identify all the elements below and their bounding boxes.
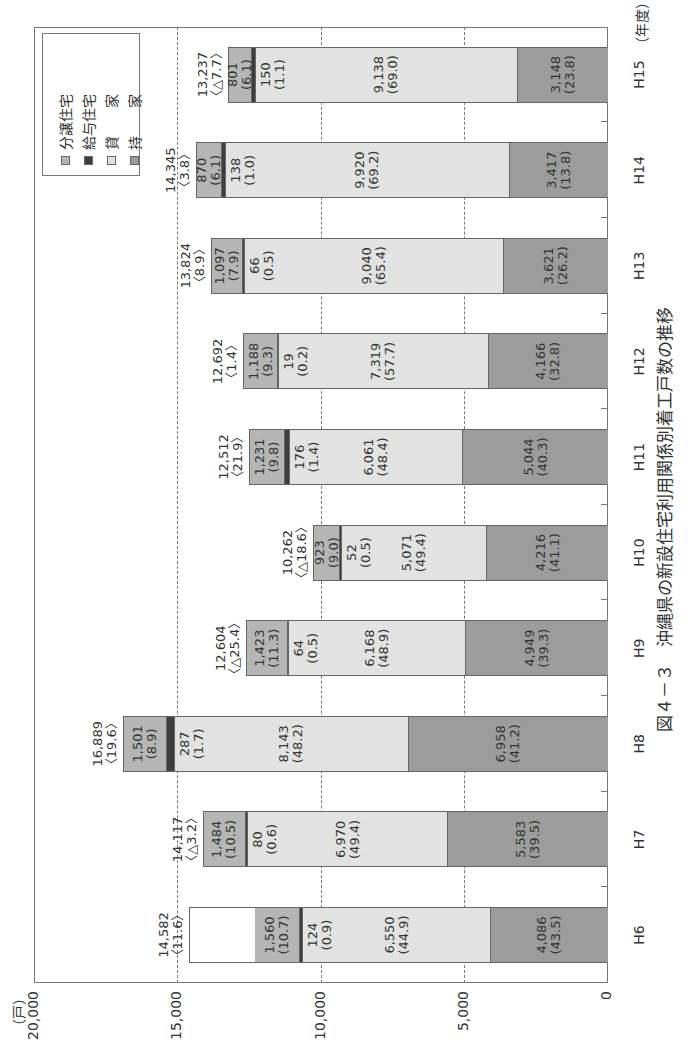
segment-label-kyuyo: 19(0.2) bbox=[282, 333, 310, 389]
segment-value: 1,188 bbox=[247, 343, 261, 380]
segment-percent: (41.2) bbox=[508, 724, 522, 763]
x-tick-mark bbox=[601, 886, 607, 887]
segment-percent: (69.2) bbox=[367, 151, 381, 190]
segment-貸家: 9,138(69.0) bbox=[256, 48, 518, 102]
segment-value: 8,143 bbox=[277, 725, 291, 762]
bar-total-label: 14,582〈11.6〉 bbox=[157, 897, 185, 973]
segment-value: 6,168 bbox=[363, 630, 377, 667]
x-tick-label: H13 bbox=[631, 236, 647, 296]
segment-持家: 5,044(40.3) bbox=[463, 430, 608, 484]
segment-value: 4,949 bbox=[523, 630, 537, 667]
segment-percent: (6.1) bbox=[240, 59, 254, 90]
segment-percent: (44.9) bbox=[397, 915, 411, 954]
segment-percent: (13.8) bbox=[559, 151, 573, 190]
x-tick-label: H12 bbox=[631, 331, 647, 391]
bar-total-label: 16,889〈19.6〉 bbox=[91, 706, 119, 782]
segment-percent: (8.9) bbox=[145, 728, 159, 759]
segment-給与住宅 bbox=[300, 908, 304, 962]
segment-給与住宅 bbox=[246, 812, 248, 866]
segment-持家: 3,417(13.8) bbox=[510, 143, 608, 197]
y-axis-unit: （戸） bbox=[8, 991, 28, 1059]
x-tick-label: H14 bbox=[631, 140, 647, 200]
segment-label-kyuyo: 138(1.0) bbox=[229, 142, 257, 198]
segment-percent: (0.5) bbox=[261, 250, 276, 281]
segment-percent: (9.8) bbox=[267, 442, 281, 473]
segment-分譲住宅: 1,097(7.9) bbox=[212, 239, 243, 293]
segment-percent: (1.1) bbox=[272, 59, 287, 90]
segment-value: 64 bbox=[291, 640, 306, 657]
segment-percent: (32.8) bbox=[548, 342, 562, 381]
bar-total-label: 14,117〈△3.2〉 bbox=[171, 801, 199, 877]
segment-percent: (23.8) bbox=[563, 55, 577, 94]
segment-percent: (43.5) bbox=[549, 915, 563, 954]
segment-value: 1,560 bbox=[263, 916, 277, 953]
legend-swatch bbox=[130, 156, 139, 165]
legend-label: 給与住宅 bbox=[78, 94, 98, 150]
segment-value: 19 bbox=[281, 353, 296, 370]
x-tick-label: H7 bbox=[631, 809, 647, 869]
segment-value: 3,417 bbox=[545, 152, 559, 189]
segment-percent: (1.0) bbox=[242, 155, 257, 186]
x-axis-unit: （年度） bbox=[631, 0, 651, 51]
segment-value: 3,621 bbox=[542, 247, 556, 284]
x-tick-label: H6 bbox=[631, 905, 647, 965]
segment-給与住宅 bbox=[167, 717, 175, 771]
segment-貸家: 7,319(57.7) bbox=[279, 334, 489, 388]
segment-percent: (69.0) bbox=[386, 55, 400, 94]
segment-value: 176 bbox=[292, 445, 307, 470]
segment-percent: (48.9) bbox=[377, 629, 391, 668]
segment-percent: (41.1) bbox=[548, 533, 562, 572]
segment-分譲住宅: 1,188(9.3) bbox=[244, 334, 278, 388]
segment-percent: (1.7) bbox=[191, 728, 206, 759]
segment-value: 7,319 bbox=[369, 343, 383, 380]
legend-item-bunjo: 分譲住宅 bbox=[55, 94, 75, 165]
segment-label-kyuyo: 124(0.9) bbox=[306, 907, 334, 963]
segment-label-kyuyo: 150(1.1) bbox=[259, 47, 287, 103]
segment-給与住宅 bbox=[288, 621, 290, 675]
segment-label-kyuyo: 80(0.6) bbox=[251, 811, 279, 867]
x-tick-label: H8 bbox=[631, 714, 647, 774]
segment-percent: (0.2) bbox=[295, 346, 310, 377]
segment-value: 9,040 bbox=[360, 247, 374, 284]
segment-value: 1,097 bbox=[213, 247, 227, 284]
x-tick-mark bbox=[601, 121, 607, 122]
legend-item-kyuyo: 給与住宅 bbox=[78, 94, 98, 165]
segment-分譲住宅: 1,501(8.9) bbox=[124, 717, 167, 771]
segment-value: 6,970 bbox=[334, 821, 348, 858]
bar-total-label: 12,512〈21.9〉 bbox=[217, 419, 245, 495]
segment-percent: (26.2) bbox=[556, 246, 570, 285]
segment-percent: (7.9) bbox=[227, 250, 241, 281]
x-tick-mark bbox=[601, 791, 607, 792]
segment-分譲住宅: 870(6.1) bbox=[197, 143, 222, 197]
chart-stage: 4,086(43.5)6,550(44.9)1,560(10.7)124(0.9… bbox=[0, 0, 688, 1059]
x-tick-mark bbox=[601, 313, 607, 314]
bar-total-label: 13,237〈△7.7〉 bbox=[196, 37, 224, 113]
legend-item-mochiie: 持 家 bbox=[124, 94, 144, 165]
segment-percent: (0.5) bbox=[358, 537, 373, 568]
segment-percent: (48.2) bbox=[291, 724, 305, 763]
segment-percent: (10.7) bbox=[277, 915, 291, 954]
segment-分譲住宅: 923(9.0) bbox=[314, 526, 340, 580]
segment-value: 4,216 bbox=[534, 534, 548, 571]
segment-分譲住宅: 1,423(11.3) bbox=[247, 621, 288, 675]
segment-value: 1,231 bbox=[253, 438, 267, 475]
segment-value: 9,920 bbox=[353, 152, 367, 189]
segment-value: 287 bbox=[177, 731, 192, 756]
bar-H6: 4,086(43.5)6,550(44.9)1,560(10.7) bbox=[189, 907, 607, 963]
legend: 分譲住宅 給与住宅 貸 家 持 家 bbox=[42, 33, 140, 176]
segment-percent: (49.4) bbox=[348, 820, 362, 859]
segment-percent: (10.5) bbox=[224, 820, 238, 859]
segment-持家: 3,148(23.8) bbox=[518, 48, 608, 102]
x-tick-mark bbox=[601, 599, 607, 600]
segment-value: 870 bbox=[195, 158, 209, 183]
segment-percent: (48.4) bbox=[376, 437, 390, 476]
segment-持家: 6,958(41.2) bbox=[409, 717, 608, 771]
y-tick-label: 5,000 bbox=[455, 991, 471, 1059]
segment-value: 124 bbox=[305, 923, 320, 948]
segment-持家: 5,583(39.5) bbox=[448, 812, 608, 866]
x-tick-label: H11 bbox=[631, 427, 647, 487]
bar-total-label: 14,345〈3.8〉 bbox=[164, 132, 192, 208]
x-tick-label: H15 bbox=[631, 45, 647, 105]
segment-value: 138 bbox=[228, 158, 243, 183]
segment-percent: (39.5) bbox=[528, 820, 542, 859]
